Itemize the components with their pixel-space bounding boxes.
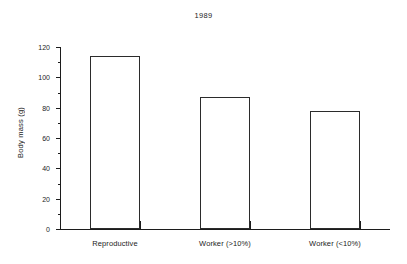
y-tick-label: 80	[42, 104, 50, 111]
y-tick-major	[56, 138, 61, 139]
x-axis-line	[60, 229, 390, 230]
x-category-label: Worker (<10%)	[309, 239, 361, 248]
x-category-label: Worker (>10%)	[199, 239, 251, 248]
y-tick-major	[56, 108, 61, 109]
y-tick-label: 60	[42, 135, 50, 142]
y-tick-minor	[58, 62, 61, 63]
x-tick	[140, 221, 141, 229]
y-tick-label: 40	[42, 165, 50, 172]
y-tick-label: 0	[46, 226, 50, 233]
y-tick-label: 120	[38, 44, 50, 51]
bar	[310, 111, 360, 229]
bar	[200, 97, 250, 229]
y-tick-major	[56, 229, 61, 230]
y-axis-title: Body mass (g)	[16, 78, 30, 188]
y-tick-label: 100	[38, 74, 50, 81]
x-category-label: Reproductive	[92, 239, 137, 248]
x-tick	[360, 221, 361, 229]
y-tick-major	[56, 168, 61, 169]
y-tick-label: 20	[42, 195, 50, 202]
y-tick-minor	[58, 153, 61, 154]
y-tick-minor	[58, 123, 61, 124]
bar	[90, 56, 140, 229]
y-tick-minor	[58, 184, 61, 185]
y-tick-minor	[58, 214, 61, 215]
y-tick-major	[56, 77, 61, 78]
y-tick-major	[56, 47, 61, 48]
plot-area: 020406080100120 ReproductiveWorker (>10%…	[60, 47, 390, 229]
y-tick-major	[56, 199, 61, 200]
chart-title: 1989	[0, 11, 407, 20]
figure-canvas: 1989 Body mass (g) 020406080100120 Repro…	[0, 0, 407, 264]
y-tick-minor	[58, 93, 61, 94]
x-tick	[250, 221, 251, 229]
